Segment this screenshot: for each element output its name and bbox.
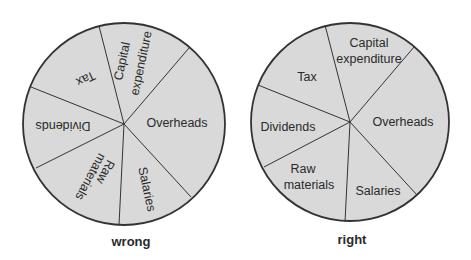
label-capital-1: Capital [350, 36, 389, 50]
label-salaries: Salaries [355, 184, 400, 198]
label-raw-1: Raw [290, 162, 316, 176]
label-overheads: Overheads [146, 116, 207, 130]
label-capital-2: expenditure [336, 52, 401, 66]
label-raw-2: materials [284, 178, 335, 192]
label-dividends: Dividends [36, 119, 91, 133]
pie-diagram: Tax Capital expenditure Overheads Salari… [0, 0, 471, 260]
caption-right: right [338, 232, 367, 247]
label-overheads: Overheads [372, 115, 433, 129]
label-dividends: Dividends [261, 120, 316, 134]
right-pie-chart: Tax Capital expenditure Overheads Salari… [251, 23, 449, 222]
wrong-pie-chart: Tax Capital expenditure Overheads Salari… [23, 23, 225, 225]
label-tax: Tax [297, 70, 317, 84]
caption-wrong: wrong [112, 234, 151, 249]
